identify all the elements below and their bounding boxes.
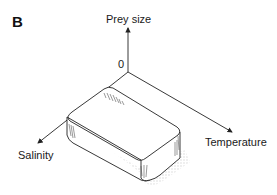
salinity-label: Salinity [18, 149, 53, 161]
origin-label: 0 [118, 58, 124, 70]
temperature-label: Temperature [205, 136, 267, 148]
niche-box [67, 87, 180, 181]
niche-diagram [0, 0, 277, 195]
prey-size-label: Prey size [106, 13, 151, 25]
